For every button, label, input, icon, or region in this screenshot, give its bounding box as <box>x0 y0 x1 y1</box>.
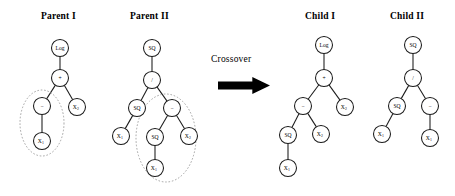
tree-node-child2-c2n1: / <box>405 70 422 87</box>
node-label-subscript: 2 <box>345 107 347 111</box>
node-label: Log <box>319 42 328 48</box>
diagram-canvas: Log+−X2X1 SQ/SQ−X1SQX2X1 Log+−X2SQX2X1 S… <box>0 0 455 196</box>
tree-node-child1-c1n2: − <box>295 98 312 115</box>
tree-node-parent1-p1n4: X1 <box>34 133 51 150</box>
tree-node-child1-c1n5: X2 <box>313 126 330 143</box>
tree-edge-child2 <box>417 85 425 98</box>
node-label: + <box>322 75 325 81</box>
tree-node-parent2-p2n4: X1 <box>113 128 130 145</box>
tree-edge-child1 <box>292 114 299 128</box>
tree-node-parent1-p1n3: X2 <box>69 99 86 116</box>
tree-node-parent2-p2n7: X1 <box>147 160 164 177</box>
tree-node-child1-c1n6: X1 <box>280 160 297 177</box>
tree-parent1: Log+−X2X1 <box>20 40 86 157</box>
tree-node-parent2-p2n1: / <box>144 72 161 89</box>
tree-node-parent2-p2n6: X2 <box>181 128 198 145</box>
node-label: SQ <box>393 103 400 109</box>
crossover-arrow <box>218 77 270 94</box>
tree-edge-child2 <box>386 113 393 126</box>
crossover-diagram: Parent I Parent II Child I Child II Cros… <box>0 0 455 196</box>
tree-node-child1-c1n0: Log <box>316 37 333 54</box>
node-label-subscript: 1 <box>430 138 432 142</box>
node-label-subscript: 1 <box>42 141 44 145</box>
node-label-subscript: 2 <box>189 136 191 140</box>
tree-edge-child2 <box>401 85 409 98</box>
node-label: − <box>301 103 304 109</box>
tree-edge-child1 <box>308 113 317 127</box>
node-label-subscript: 1 <box>155 168 157 172</box>
crossover-label: Crossover <box>211 54 251 64</box>
tree-node-parent2-p2n5: SQ <box>147 129 164 146</box>
tree-edge-parent2 <box>157 87 167 101</box>
tree-node-child2-c2n5: X1 <box>422 130 439 147</box>
tree-node-child2-c2n0: SQ <box>405 37 422 54</box>
panel-title-child1: Child I <box>305 11 335 21</box>
tree-edge-parent1 <box>47 85 56 99</box>
tree-node-child2-c2n2: SQ <box>389 98 406 115</box>
tree-node-child1-c1n1: + <box>316 70 333 87</box>
node-label: SQ <box>409 42 416 48</box>
node-label: SQ <box>133 105 140 111</box>
tree-edge-parent2 <box>125 115 133 128</box>
tree-edge-child1 <box>329 85 340 100</box>
tree-edge-child1 <box>308 85 319 99</box>
node-label: − <box>40 103 43 109</box>
tree-edge-parent2 <box>141 87 148 100</box>
node-label-subscript: 2 <box>77 107 79 111</box>
node-label-subscript: 1 <box>288 168 290 172</box>
node-label: SQ <box>284 132 291 138</box>
tree-child1: Log+−X2SQX2X1 <box>280 37 354 177</box>
tree-node-parent1-p1n0: Log <box>52 40 69 57</box>
crossover-arrow-shape <box>218 77 270 94</box>
tree-node-parent1-p1n2: − <box>34 98 51 115</box>
tree-node-parent2-p2n2: SQ <box>129 100 146 117</box>
node-label: SQ <box>148 45 155 51</box>
panel-title-child2: Child II <box>390 11 424 21</box>
panel-title-parent2: Parent II <box>130 11 169 21</box>
node-label-subscript: 2 <box>321 134 323 138</box>
panel-title-parent1: Parent I <box>41 11 76 21</box>
tree-node-child2-c2n3: − <box>422 98 439 115</box>
node-label-subscript: 1 <box>382 134 384 138</box>
tree-parent2: SQ/SQ−X1SQX2X1 <box>113 40 198 183</box>
tree-child2: SQ/SQ−X1X1 <box>374 37 439 147</box>
node-label: Log <box>55 45 64 51</box>
tree-edge-parent1 <box>64 85 72 99</box>
node-label: SQ <box>151 134 158 140</box>
node-label-subscript: 1 <box>121 136 123 140</box>
node-label: − <box>428 103 431 109</box>
tree-edge-parent2 <box>159 115 167 129</box>
tree-node-parent1-p1n1: + <box>52 70 69 87</box>
tree-node-parent2-p2n0: SQ <box>144 40 161 57</box>
tree-edge-parent2 <box>176 115 184 128</box>
tree-node-parent2-p2n3: − <box>164 100 181 117</box>
tree-node-child1-c1n4: SQ <box>280 127 297 144</box>
node-label: − <box>170 105 173 111</box>
tree-node-child1-c1n3: X2 <box>337 99 354 116</box>
node-label: + <box>58 75 61 81</box>
tree-node-child2-c2n4: X1 <box>374 126 391 143</box>
